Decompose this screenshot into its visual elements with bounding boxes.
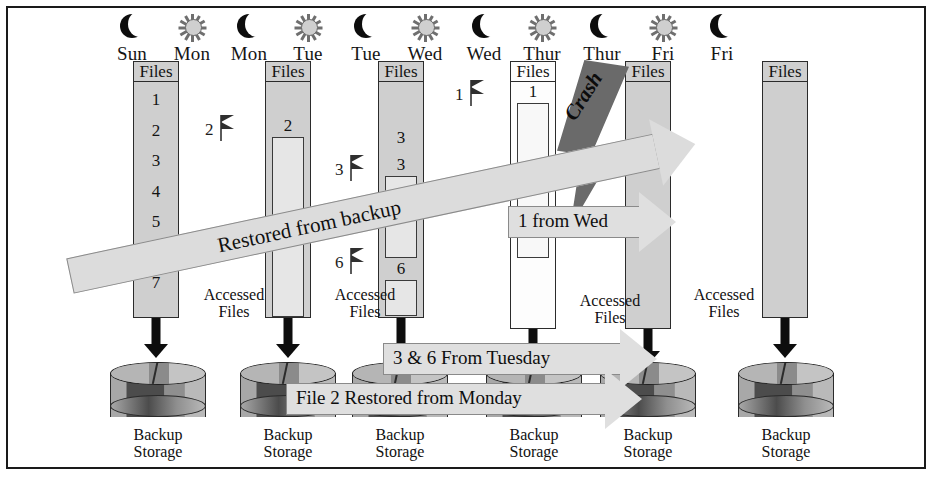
cylinder-top (738, 362, 834, 385)
restore-arrow-head-icon (605, 369, 642, 429)
day-header-thur-day: Thur (510, 14, 574, 64)
day-header-wed-day: Wed (393, 14, 457, 64)
day-header-thur-night: Thur (570, 14, 634, 64)
restore-arrow-label: 3 & 6 From Tuesday (393, 347, 550, 369)
diagram-canvas: SunMonMonTueTueWedWedThurThurFriFri File… (0, 0, 936, 479)
accessed-files-line2: Files (186, 303, 282, 320)
sun-icon (648, 14, 678, 42)
flag-icon (471, 80, 484, 94)
sun-icon (177, 14, 207, 42)
moon-icon (452, 14, 516, 44)
moon-icon (570, 14, 634, 44)
moon-icon (217, 14, 281, 44)
backup-storage-line2: Storage (726, 443, 846, 460)
flag-number: 2 (205, 120, 214, 140)
day-header-wed-night: Wed (452, 14, 516, 64)
file-number: 1 (133, 90, 179, 110)
day-label: Fri (690, 44, 754, 64)
flag-icon (351, 248, 364, 262)
file-number: 1 (510, 82, 556, 102)
sun-icon (293, 14, 323, 42)
accessed-files-line1: Accessed (186, 286, 282, 303)
moon-icon (690, 14, 754, 44)
day-header-tue-day: Tue (276, 14, 340, 64)
backup-storage-line1: Backup (98, 426, 218, 443)
sun-icon (510, 14, 574, 44)
file-number: 2 (265, 116, 311, 136)
backup-storage-label: BackupStorage (98, 426, 218, 460)
moon-icon (237, 14, 261, 40)
backup-down-arrow (773, 318, 797, 358)
day-label: Wed (452, 44, 516, 64)
moon-icon (100, 14, 164, 44)
accessed-files-line1: Accessed (562, 292, 658, 309)
backup-storage-label: BackupStorage (340, 426, 460, 460)
file-number: 4 (133, 182, 179, 202)
arrow-stem (152, 318, 161, 344)
accessed-files-line1: Accessed (317, 286, 413, 303)
accessed-files-line2: Files (676, 303, 772, 320)
backup-storage-cylinder (110, 362, 206, 424)
moon-icon (590, 14, 614, 40)
flag-number: 6 (335, 253, 344, 273)
arrow-head-icon (144, 344, 168, 358)
moon-icon (710, 14, 734, 40)
file-column-header: Files (379, 62, 423, 82)
file-number: 3 (133, 151, 179, 171)
file-column-header: Files (266, 62, 310, 82)
day-header-sun-night: Sun (100, 14, 164, 64)
cylinder-top (110, 362, 206, 385)
day-header-fri-night: Fri (690, 14, 754, 64)
accessed-files-label: AccessedFiles (562, 292, 658, 326)
flag-icon (221, 115, 234, 129)
backup-storage-line2: Storage (474, 443, 594, 460)
restore-arrow-one-from-wed: 1 from Wed (508, 192, 676, 252)
file-number: 6 (378, 259, 424, 279)
backup-down-arrow (276, 318, 300, 358)
accessed-files-label: AccessedFiles (186, 286, 282, 320)
accessed-files-line1: Accessed (676, 286, 772, 303)
backup-storage-label: BackupStorage (588, 426, 708, 460)
file-number: 3 (378, 155, 424, 175)
cylinder-bottom (110, 395, 206, 417)
backup-storage-label: BackupStorage (228, 426, 348, 460)
cylinder-bottom (738, 395, 834, 417)
accessed-files-label: AccessedFiles (317, 286, 413, 320)
arrow-stem (284, 318, 293, 344)
backup-storage-line2: Storage (588, 443, 708, 460)
moon-icon (354, 14, 378, 40)
file-number: 5 (133, 212, 179, 232)
moon-icon (120, 14, 144, 40)
sun-icon (631, 14, 695, 44)
day-header-tue-night: Tue (334, 14, 398, 64)
backup-storage-line2: Storage (98, 443, 218, 460)
arrow-head-icon (773, 344, 797, 358)
sun-icon (410, 14, 440, 42)
file-column-header: Files (763, 62, 807, 82)
backup-down-arrow (144, 318, 168, 358)
day-header-mon-day: Mon (160, 14, 224, 64)
moon-icon (472, 14, 496, 40)
backup-storage-line2: Storage (340, 443, 460, 460)
backup-storage-line1: Backup (726, 426, 846, 443)
file-column-header: Files (511, 62, 555, 82)
sun-icon (160, 14, 224, 44)
sun-icon (276, 14, 340, 44)
file-number: 2 (133, 121, 179, 141)
sun-icon (527, 14, 557, 42)
moon-icon (334, 14, 398, 44)
arrow-stem (781, 318, 790, 344)
restore-arrow-label: File 2 Restored from Monday (296, 387, 522, 409)
accessed-files-label: AccessedFiles (676, 286, 772, 320)
accessed-files-line2: Files (562, 309, 658, 326)
flag-icon (351, 155, 364, 169)
file-number: 3 (378, 128, 424, 148)
arrow-head-icon (276, 344, 300, 358)
backup-storage-label: BackupStorage (726, 426, 846, 460)
sun-icon (393, 14, 457, 44)
day-header-fri-day: Fri (631, 14, 695, 64)
restore-arrow-file-two-restored-from-monday: File 2 Restored from Monday (286, 369, 642, 429)
file-column-header: Files (134, 62, 178, 82)
restore-arrow-label: 1 from Wed (518, 210, 608, 232)
backup-storage-line2: Storage (228, 443, 348, 460)
